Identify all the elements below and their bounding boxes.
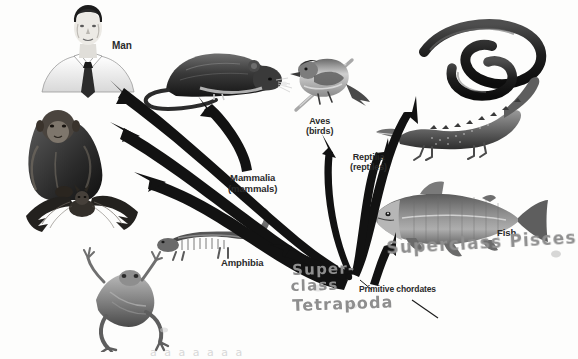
label-amphibia: Amphibia — [221, 258, 263, 269]
bottom-bleed-text: a a a a a a a — [150, 346, 244, 359]
annotation-super-line2: class — [290, 277, 356, 294]
label-mammalia-secondary: (mammals) — [228, 184, 277, 195]
illustration-man — [42, 5, 134, 98]
label-aves: Aves (birds) — [306, 116, 333, 136]
illustration-snake — [424, 24, 541, 96]
label-reptilia: Reptilia (reptiles) — [350, 152, 387, 172]
label-aves-primary: Aves — [309, 116, 330, 126]
label-reptilia-secondary: (reptiles) — [350, 162, 387, 172]
annotation-superclass-prefix: Super- class — [292, 261, 356, 294]
illustration-chimpanzee — [28, 110, 102, 200]
label-man: Man — [112, 40, 132, 51]
illustration-rat — [146, 54, 292, 109]
illustration-frog — [84, 248, 168, 352]
annotation-tetrapoda: Tetrapoda — [292, 294, 394, 314]
label-mammalia: Mammalia (mammals) — [228, 173, 277, 194]
label-reptilia-primary: Reptilia — [353, 152, 385, 162]
label-mammalia-primary: Mammalia — [230, 172, 275, 183]
illustration-bird — [290, 59, 370, 110]
label-aves-secondary: (birds) — [306, 126, 333, 136]
